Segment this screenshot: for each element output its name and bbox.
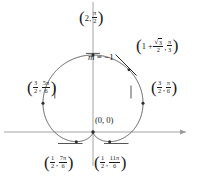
marker-7pi-over-6: [75, 140, 78, 143]
label-point-origin: (0, 0): [95, 116, 113, 125]
radius-denominator: 2: [100, 163, 105, 170]
angle-denominator: 2: [92, 18, 97, 25]
radius-numerator: √3: [153, 38, 163, 47]
angle-fraction: π 6: [166, 80, 171, 95]
radius-lead: 1 +: [142, 42, 153, 51]
label-point-11pi-over-6: ( 1 2 , 11π 6 ): [94, 155, 126, 170]
angle-denominator: 6: [43, 88, 48, 95]
tangent-line-slope-minus-one: [116, 55, 137, 76]
radius-fraction: √3 2: [153, 38, 163, 54]
angle-fraction: 11π 6: [109, 155, 120, 170]
angle-denominator: 6: [166, 88, 171, 95]
comma: ,: [164, 44, 166, 52]
marker-5pi-over-6: [41, 102, 44, 105]
angle-fraction: π 3: [167, 39, 172, 54]
marker-pi-over-3: [128, 68, 131, 71]
label-point-top: ( 2 , π 2 ): [79, 10, 103, 25]
comma: ,: [89, 15, 91, 23]
comma: ,: [106, 160, 108, 168]
marker-11pi-over-6: [108, 140, 111, 143]
angle-denominator: 6: [112, 163, 117, 170]
marker-pi-over-6: [142, 102, 145, 105]
x-axis-arrow: [180, 130, 186, 135]
radicand: 3: [158, 38, 162, 46]
label-point-5pi-over-6: ( 3 2 , 5π 6 ): [27, 80, 56, 95]
sqrt-group: √3: [154, 38, 162, 46]
radius-fraction: 1 2: [100, 155, 105, 170]
marker-origin: [91, 130, 94, 133]
angle-denominator: 6: [60, 163, 65, 170]
label-point-pi-over-3: ( 1 + √3 2 , π 3 ): [136, 38, 178, 54]
radius-denominator: 2: [50, 163, 55, 170]
radius-fraction: 3 2: [33, 80, 38, 95]
comma: ,: [56, 160, 58, 168]
slope-value: −1: [104, 52, 114, 62]
radius-denominator: 2: [157, 88, 162, 95]
comma: ,: [39, 85, 41, 93]
radius-fraction: 3 2: [157, 80, 162, 95]
angle-denominator: 3: [167, 46, 172, 53]
radius-denominator: 2: [156, 47, 161, 54]
radius-denominator: 2: [33, 88, 38, 95]
slope-annotation: m = −1: [88, 53, 114, 62]
radius-fraction: 1 2: [50, 155, 55, 170]
x-axis: [4, 130, 186, 135]
angle-fraction: π 2: [92, 10, 97, 25]
polar-cardioid-figure: ( 2 , π 2 ) ( 1 + √3 2 ,: [0, 0, 201, 183]
angle-fraction: 5π 6: [42, 80, 50, 95]
angle-fraction: 7π 6: [59, 155, 67, 170]
label-point-pi-over-6: ( 3 2 , π 6 ): [151, 80, 177, 95]
label-point-7pi-over-6: ( 1 2 , 7π 6 ): [44, 155, 73, 170]
comma: ,: [163, 85, 165, 93]
